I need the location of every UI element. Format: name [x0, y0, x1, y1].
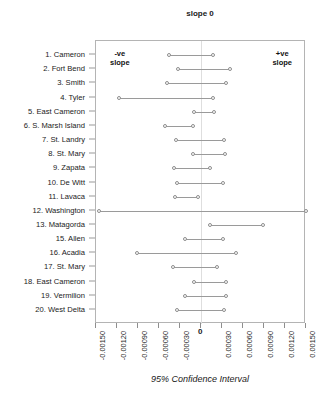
x-axis-tick-label: -0.00150 — [98, 331, 107, 360]
ci-upper-marker — [212, 110, 216, 114]
ci-upper-marker — [222, 308, 226, 312]
y-axis-labels: 1. Cameron2. Fort Bend3. Smith4. Tyler5.… — [0, 40, 95, 323]
ci-lower-marker — [176, 67, 180, 71]
ci-upper-marker — [208, 166, 212, 170]
ci-upper-marker — [261, 223, 265, 227]
ci-upper-marker — [224, 294, 228, 298]
y-axis-label: 20. West Delta — [35, 304, 85, 313]
positive-slope-annotation: +ve slope — [272, 49, 292, 67]
ci-lower-marker — [117, 96, 121, 100]
ci-upper-marker — [223, 152, 227, 156]
ci-lower-marker — [183, 294, 187, 298]
slope-zero-line2: 0 — [209, 9, 213, 18]
y-axis-label: 19. Vermilion — [41, 290, 85, 299]
x-axis-tick-label: 0.00120 — [287, 331, 296, 358]
ci-upper-marker — [215, 265, 219, 269]
x-axis-tick-label: 0.00030 — [224, 331, 233, 358]
ci-lower-marker — [135, 251, 139, 255]
ci-line — [185, 296, 226, 297]
slope-zero-annotation: slope 0 — [186, 9, 214, 19]
ci-upper-marker — [304, 209, 308, 213]
x-axis-tick — [305, 323, 306, 328]
ci-upper-marker — [224, 280, 228, 284]
ci-line — [178, 69, 230, 70]
ci-lower-marker — [167, 53, 171, 57]
ci-line — [165, 126, 193, 127]
negative-slope-line2: slope — [110, 58, 130, 67]
ci-line — [169, 55, 213, 56]
ci-lower-marker — [191, 152, 195, 156]
ci-upper-marker — [222, 138, 226, 142]
ci-lower-marker — [192, 280, 196, 284]
x-axis-tick-label: -0.00090 — [140, 331, 149, 360]
ci-upper-marker — [221, 181, 225, 185]
ci-lower-marker — [208, 223, 212, 227]
confidence-interval-chart: slope 0 1. Cameron2. Fort Bend3. Smith4.… — [0, 0, 324, 402]
ci-line — [177, 183, 224, 184]
x-axis-tick — [116, 323, 117, 328]
ci-line — [137, 253, 236, 254]
ci-lower-marker — [192, 110, 196, 114]
y-axis-label: 12. Washington — [33, 205, 86, 214]
ci-line — [176, 140, 224, 141]
ci-line — [193, 154, 225, 155]
ci-upper-marker — [228, 67, 232, 71]
x-axis-tick — [158, 323, 159, 328]
ci-upper-marker — [196, 195, 200, 199]
ci-line — [174, 168, 210, 169]
x-axis-tick-label: 0.00090 — [266, 331, 275, 358]
ci-lower-marker — [172, 166, 176, 170]
x-axis-tick — [242, 323, 243, 328]
positive-slope-line2: slope — [272, 58, 292, 67]
y-axis-label: 16. Acadia — [50, 248, 85, 257]
y-axis-label: 4. Tyler — [60, 92, 85, 101]
y-axis-label: 18. East Cameron — [24, 276, 85, 285]
ci-line — [194, 282, 226, 283]
ci-lower-marker — [97, 209, 101, 213]
ci-line — [194, 112, 214, 113]
negative-slope-annotation: -ve slope — [110, 49, 130, 67]
y-axis-label: 15. Allen — [56, 234, 85, 243]
y-axis-label: 2. Fort Bend — [43, 64, 85, 73]
x-axis-tick — [95, 323, 96, 328]
ci-line — [175, 197, 197, 198]
ci-lower-marker — [165, 81, 169, 85]
x-axis-tick — [137, 323, 138, 328]
y-axis-label: 9. Zapata — [53, 163, 85, 172]
ci-lower-marker — [183, 237, 187, 241]
x-axis-tick-label: 0.00150 — [308, 331, 317, 358]
x-axis-tick-label: -0.00060 — [161, 331, 170, 360]
x-axis-tick — [221, 323, 222, 328]
x-axis-tick-label: 0 — [198, 327, 202, 336]
x-axis-tick — [179, 323, 180, 328]
ci-lower-marker — [175, 308, 179, 312]
ci-line — [99, 211, 306, 212]
x-axis-tick-label: -0.00030 — [182, 331, 191, 360]
ci-line — [185, 239, 223, 240]
ci-lower-marker — [175, 181, 179, 185]
y-axis-label: 17. St. Mary — [44, 262, 85, 271]
ci-line — [119, 98, 213, 99]
y-axis-label: 8. St. Mary — [48, 149, 85, 158]
slope-zero-line1: slope — [186, 9, 207, 18]
ci-upper-marker — [211, 96, 215, 100]
ci-line — [173, 267, 217, 268]
ci-line — [167, 83, 227, 84]
ci-upper-marker — [211, 53, 215, 57]
y-axis-label: 1. Cameron — [45, 50, 85, 59]
plot-area: -ve slope +ve slope — [95, 40, 305, 323]
x-axis-title: 95% Confidence Interval — [151, 374, 249, 384]
ci-lower-marker — [171, 265, 175, 269]
ci-lower-marker — [163, 124, 167, 128]
ci-upper-marker — [234, 251, 238, 255]
ci-line — [177, 310, 225, 311]
y-axis-label: 5. East Cameron — [28, 106, 85, 115]
y-axis-label: 13. Matagorda — [36, 219, 85, 228]
x-axis-tick-label: -0.00120 — [119, 331, 128, 360]
y-axis-label: 6. S. Marsh Island — [24, 120, 85, 129]
positive-slope-line1: +ve — [276, 49, 289, 58]
ci-upper-marker — [221, 237, 225, 241]
x-axis-tick-label: 0.00060 — [245, 331, 254, 358]
ci-lower-marker — [173, 195, 177, 199]
ci-upper-marker — [191, 124, 195, 128]
